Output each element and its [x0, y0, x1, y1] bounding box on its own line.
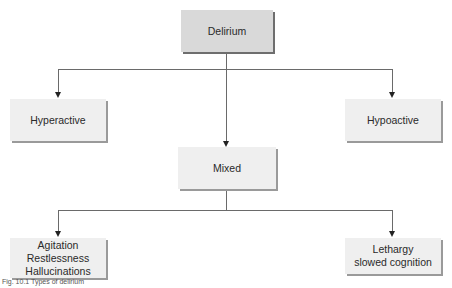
- node-mixed: Mixed: [178, 147, 276, 189]
- connector-hyperactive-drop: [58, 69, 59, 93]
- connector-level2-bar: [58, 210, 393, 211]
- node-hypoactive-symptoms: Lethargy slowed cognition: [345, 238, 441, 274]
- symptom-slowed-cognition: slowed cognition: [354, 256, 432, 269]
- connector-mixed-drop: [226, 69, 227, 142]
- node-hypoactive: Hypoactive: [345, 99, 441, 141]
- connector-agitation-drop: [58, 210, 59, 232]
- node-mixed-label: Mixed: [213, 162, 241, 175]
- node-delirium-label: Delirium: [208, 25, 247, 38]
- connector-lethargy-drop: [392, 210, 393, 232]
- arrow-hyperactive-icon: [55, 92, 61, 98]
- node-hyperactive: Hyperactive: [10, 99, 106, 141]
- node-hypoactive-label: Hypoactive: [367, 114, 419, 127]
- figure-caption: Fig. 10.1 Types of delirium: [2, 278, 84, 285]
- node-hyperactive-label: Hyperactive: [30, 114, 85, 127]
- connector-hypoactive-drop: [392, 69, 393, 93]
- symptom-hallucinations: Hallucinations: [25, 265, 90, 278]
- arrow-agitation-icon: [55, 231, 61, 237]
- node-delirium: Delirium: [181, 10, 273, 52]
- arrow-hypoactive-icon: [389, 92, 395, 98]
- node-hyperactive-symptoms: Agitation Restlessness Hallucinations: [10, 238, 106, 278]
- arrow-lethargy-icon: [389, 231, 395, 237]
- symptom-lethargy: Lethargy: [373, 243, 414, 256]
- symptom-restlessness: Restlessness: [27, 252, 89, 265]
- connector-root-stem: [226, 54, 227, 70]
- connector-mixed-stem: [226, 191, 227, 211]
- symptom-agitation: Agitation: [38, 239, 79, 252]
